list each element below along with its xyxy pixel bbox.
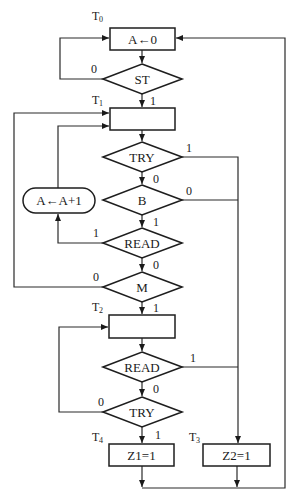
svg-text:2: 2 [99, 306, 103, 315]
decision-read-1: READ [103, 228, 182, 258]
svg-text:TRY: TRY [129, 405, 155, 420]
decision-b: B [103, 185, 182, 215]
svg-text:0: 0 [98, 395, 104, 409]
svg-text:1: 1 [186, 141, 192, 155]
state-box-t3: Z2=1 [203, 444, 270, 466]
decision-m: M [103, 272, 182, 302]
decision-read-2: READ [103, 352, 182, 382]
state-label-t4: T 4 [92, 430, 103, 445]
svg-text:B: B [138, 193, 147, 208]
svg-text:1: 1 [153, 215, 159, 229]
decision-try-2: TRY [103, 397, 182, 427]
state-box-t4: Z1=1 [109, 444, 174, 466]
state-box-t0: A←0 [110, 28, 175, 50]
box-z2-text: Z2=1 [222, 448, 250, 463]
svg-text:0: 0 [93, 270, 99, 284]
state-box-t1 [110, 108, 175, 130]
svg-text:0: 0 [153, 172, 159, 186]
svg-text:TRY: TRY [129, 150, 155, 165]
state-label-t1: T 1 [92, 93, 103, 108]
svg-text:ST: ST [134, 72, 149, 87]
svg-text:READ: READ [124, 360, 159, 375]
state-box-t2 [109, 315, 175, 338]
svg-text:3: 3 [196, 436, 200, 445]
state-label-t3: T 3 [189, 430, 200, 445]
svg-text:1: 1 [99, 99, 103, 108]
svg-text:1: 1 [153, 301, 159, 315]
svg-text:0: 0 [186, 184, 192, 198]
svg-text:0: 0 [153, 382, 159, 396]
conditional-box-increment: A←A+1 [23, 188, 95, 213]
svg-text:1: 1 [93, 226, 99, 240]
decision-try-1: TRY [103, 142, 182, 172]
svg-text:0: 0 [99, 15, 103, 24]
svg-text:0: 0 [91, 62, 97, 76]
svg-text:1: 1 [150, 94, 156, 108]
box-t0-text: A←0 [128, 32, 157, 47]
svg-text:1: 1 [190, 351, 196, 365]
state-label-t0: T 0 [92, 9, 103, 24]
svg-text:READ: READ [124, 236, 159, 251]
decision-st: ST [103, 64, 182, 94]
state-label-t2: T 2 [92, 300, 103, 315]
svg-text:4: 4 [99, 436, 103, 445]
box-incr-text: A←A+1 [36, 193, 82, 208]
svg-text:1: 1 [155, 428, 161, 442]
svg-text:M: M [136, 280, 148, 295]
asm-flowchart: A←0 A←A+1 Z1=1 Z2=1 ST TRY B READ M REA [0, 0, 296, 501]
svg-text:0: 0 [153, 258, 159, 272]
box-z1-text: Z1=1 [127, 448, 155, 463]
